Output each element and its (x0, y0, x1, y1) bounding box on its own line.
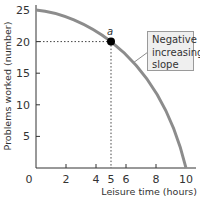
y-ticks (36, 10, 40, 136)
annotation-box: Negative increasing slope (147, 31, 194, 71)
y-tick-label-10: 10 (16, 99, 30, 112)
y-tick-label-20: 20 (16, 36, 30, 49)
point-a-label: a (107, 26, 113, 37)
x-tick-label-6: 6 (123, 173, 130, 186)
y-tick-label-5: 5 (23, 130, 30, 143)
y-tick-label-15: 15 (16, 67, 30, 80)
annotation-line-2: increasing (152, 47, 193, 60)
x-axis-title: Leisure time (hours) (101, 186, 197, 197)
x-tick-label-8: 8 (153, 173, 160, 186)
chart-svg: 25 20 15 10 5 0 2 4 5 6 8 10 Leisure tim… (0, 0, 200, 199)
x-tick-label-0: 0 (26, 173, 33, 186)
x-tick-label-10: 10 (179, 173, 193, 186)
annotation-line-1: Negative (152, 34, 193, 47)
annotation-line-3: slope (152, 59, 193, 72)
y-tick-label-25: 25 (16, 4, 30, 17)
point-a-marker (107, 38, 115, 46)
x-tick-label-4: 4 (93, 173, 100, 186)
x-tick-label-2: 2 (63, 173, 70, 186)
annotation-leader-line (133, 52, 148, 63)
y-axis-title: Problems worked (number) (2, 22, 13, 151)
x-tick-label-5: 5 (108, 173, 115, 186)
